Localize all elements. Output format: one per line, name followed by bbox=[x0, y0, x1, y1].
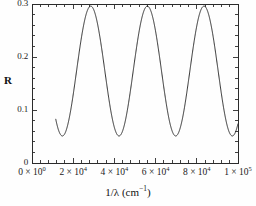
x-tick-label: 1 × 105 bbox=[208, 167, 256, 177]
chart-figure: 00.10.20.3 0 × 1002 × 1044 × 1046 × 1048… bbox=[0, 0, 256, 206]
x-axis-title-suffix: ) bbox=[147, 186, 151, 198]
y-tick-label: 0.3 bbox=[2, 0, 28, 8]
y-tick-label: 0.2 bbox=[2, 51, 28, 61]
plot-border bbox=[32, 4, 238, 163]
plot-frame bbox=[32, 4, 238, 163]
x-axis-title-exponent: −1 bbox=[139, 184, 147, 193]
y-axis-title: R bbox=[4, 74, 12, 86]
x-axis-title: 1/λ (cm−1) bbox=[0, 186, 256, 198]
y-tick-label: 0.1 bbox=[2, 104, 28, 114]
x-axis-title-prefix: 1/λ (cm bbox=[105, 186, 139, 198]
y-tick-label: 0 bbox=[2, 157, 28, 167]
